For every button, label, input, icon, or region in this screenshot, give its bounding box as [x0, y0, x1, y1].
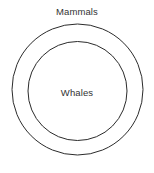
- euler-diagram: Mammals Whales: [0, 0, 154, 173]
- outer-set-label-mammals: Mammals: [0, 6, 154, 17]
- inner-set-label-whales: Whales: [0, 87, 154, 98]
